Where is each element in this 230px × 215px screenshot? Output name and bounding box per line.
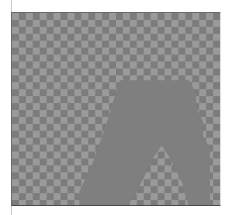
editor-viewport [0, 0, 230, 215]
image-canvas[interactable] [11, 12, 221, 206]
canvas-drawing [12, 13, 220, 205]
